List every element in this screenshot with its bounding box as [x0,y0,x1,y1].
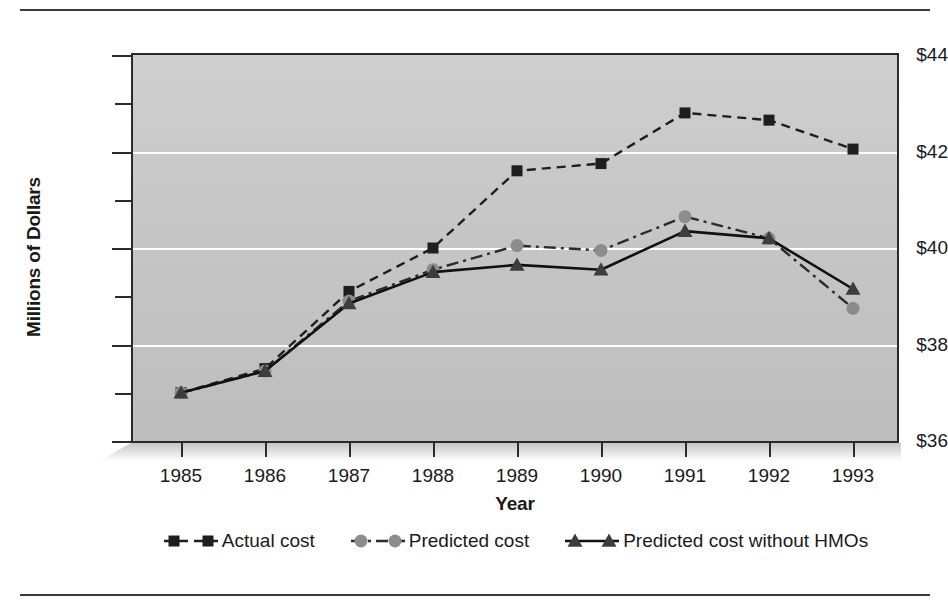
y-axis-major-tick [112,248,131,250]
data-point-marker [202,535,213,546]
x-axis-tick [601,443,603,457]
legend-label: Actual cost [222,531,315,550]
data-point-marker [846,282,861,295]
chart-legend: Actual costPredicted costPredicted cost … [131,531,899,550]
y-axis-major-tick [112,345,131,347]
x-axis-tick [265,443,267,457]
y-axis-title: Millions of Dollars [23,127,45,387]
y-axis-major-tick [112,152,131,154]
y-axis-minor-tick [115,103,131,105]
plot-drop-shadow [99,443,901,461]
series-lines [133,55,897,441]
series-1 [176,107,859,398]
top-divider-rule [20,9,930,11]
data-point-marker [596,158,607,169]
data-point-marker [595,244,608,257]
legend-item: Actual cost [162,531,315,550]
data-point-marker [848,144,859,155]
series-line [181,231,853,393]
x-axis-tick [769,443,771,457]
x-axis-tick-label: 1992 [729,466,809,485]
x-axis-tick-label: 1990 [561,466,641,485]
x-axis-tick [433,443,435,457]
data-point-marker [680,107,691,118]
x-axis-tick-label: 1985 [141,466,221,485]
x-axis-tick [853,443,855,457]
x-axis-tick [685,443,687,457]
x-axis-tick-label: 1991 [645,466,725,485]
x-axis-tick-label: 1988 [393,466,473,485]
y-axis-minor-tick [115,393,131,395]
data-point-marker [764,115,775,126]
legend-item: Predicted cost without HMOs [563,531,868,550]
x-axis-tick-label: 1986 [225,466,305,485]
legend-item: Predicted cost [349,531,529,550]
x-axis-tick [181,443,183,457]
plot-area [131,53,899,443]
x-axis-title: Year [131,493,899,515]
bottom-divider-rule [20,594,930,596]
data-point-marker [428,243,439,254]
chart-figure: Millions of Dollars $36$38$40$42$44 1985… [0,0,948,612]
y-axis-minor-tick [115,296,131,298]
x-axis-tick-label: 1989 [477,466,557,485]
legend-label: Predicted cost without HMOs [623,531,868,550]
data-point-marker [679,210,692,223]
data-point-marker [354,534,367,547]
series-line [181,113,853,393]
y-axis-major-tick [112,441,131,443]
dashed-square-marker-swatch [162,533,220,549]
x-axis-tick-label: 1993 [813,466,893,485]
data-point-marker [388,534,401,547]
y-axis-major-tick [112,55,131,57]
x-axis-tick-label: 1987 [309,466,389,485]
legend-label: Predicted cost [409,531,529,550]
x-axis-tick [349,443,351,457]
data-point-marker [512,165,523,176]
dashdot-circle-marker-swatch [349,533,407,549]
data-point-marker [511,239,524,252]
x-axis-tick [517,443,519,457]
data-point-marker [168,535,179,546]
data-point-marker [847,302,860,315]
y-axis-minor-tick [115,200,131,202]
solid-triangle-marker-swatch [563,533,621,549]
